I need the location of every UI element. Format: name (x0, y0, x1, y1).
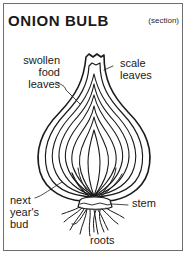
label-line: leaves (120, 69, 152, 81)
leader-next-years-bud (35, 182, 62, 198)
label-line: next (10, 194, 39, 206)
label-stem: stem (132, 197, 156, 209)
label-scale-leaves: scale leaves (120, 57, 152, 81)
leader-stem (112, 204, 128, 205)
label-line: food (8, 66, 60, 78)
label-line: bud (10, 218, 39, 230)
label-next-years-bud: next year's bud (10, 194, 39, 230)
inner-leaf (88, 130, 100, 196)
roots-group (62, 207, 124, 236)
label-line: year's (10, 206, 39, 218)
label-line: swollen (8, 54, 60, 66)
label-line: leaves (8, 78, 60, 90)
label-line: scale (120, 57, 152, 69)
label-swollen-food-leaves: swollen food leaves (8, 54, 60, 90)
label-roots: roots (90, 234, 114, 246)
food-leaf-layer (72, 106, 116, 196)
